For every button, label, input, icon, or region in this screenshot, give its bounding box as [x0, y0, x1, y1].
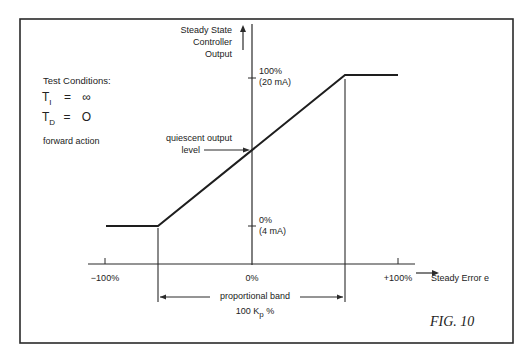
quiescent-label-line1: quiescent output	[150, 133, 232, 144]
quiescent-label-line2: level	[150, 145, 200, 156]
td-value: O	[82, 110, 91, 124]
band-arrowhead-left-icon	[160, 295, 166, 300]
td-subscript: D	[49, 118, 55, 127]
y-axis-title-line: Steady State	[160, 24, 232, 36]
test-conditions-heading: Test Conditions:	[43, 75, 111, 86]
y-tick-ma: (20 mA)	[259, 77, 291, 88]
formula-post: %	[264, 306, 275, 316]
ti-condition: TI = ∞	[42, 92, 91, 104]
y-tick-percent: 0%	[259, 215, 286, 226]
y-tick-percent: 100%	[259, 66, 291, 77]
y-axis-arrowhead-icon	[240, 25, 246, 32]
x-axis-title: Steady Error e	[431, 273, 489, 284]
action-label: forward action	[43, 136, 100, 147]
td-equals: =	[63, 110, 70, 124]
x-tick-label-plus100: +100%	[374, 273, 422, 284]
ti-equals: =	[64, 90, 71, 104]
proportional-band-formula: 100 Kp %	[215, 306, 295, 317]
td-condition: TD = O	[42, 112, 91, 124]
figure-label: FIG. 10	[430, 314, 474, 330]
y-axis-title: Steady State Controller Output	[160, 24, 232, 60]
y-tick-label-0: 0% (4 mA)	[259, 215, 286, 237]
x-tick-label-minus100: −100%	[80, 273, 130, 284]
x-tick-label-0: 0%	[236, 273, 268, 284]
y-axis-title-line: Output	[160, 48, 232, 60]
y-tick-ma: (4 mA)	[259, 226, 286, 237]
ti-value: ∞	[82, 90, 91, 104]
ti-subscript: I	[49, 98, 51, 107]
formula-pre: 100 K	[236, 306, 260, 316]
formula-subscript: p	[259, 310, 263, 319]
proportional-band-label: proportional band	[200, 291, 310, 302]
band-arrowhead-right-icon	[337, 295, 343, 300]
y-tick-label-100: 100% (20 mA)	[259, 66, 291, 88]
y-axis-title-line: Controller	[160, 36, 232, 48]
